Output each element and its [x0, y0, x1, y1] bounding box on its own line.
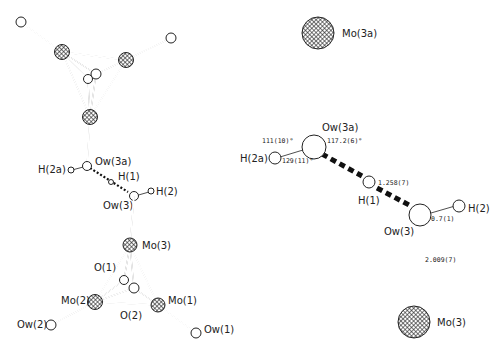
o1-atom — [120, 276, 129, 285]
mo3-atom — [398, 306, 430, 338]
mo3a-atom — [302, 17, 334, 49]
h2-atom — [453, 200, 465, 212]
bond-ow3a-h2a — [280, 150, 303, 157]
label-h2: H(2) — [468, 203, 490, 214]
upper-water-oxygen-left — [16, 17, 26, 27]
label-mo1: Mo(1) — [168, 295, 197, 306]
ow1-atom — [191, 328, 201, 338]
mo-atom-upper-left — [55, 45, 70, 60]
right-structure: Mo(3a) Ow(3a) H(2a) 111(10)° 117.2(6)° 1… — [240, 17, 490, 338]
ow2-atom — [46, 320, 56, 330]
upper-water-oxygen-right — [166, 33, 176, 43]
label-h1: H(1) — [118, 171, 140, 182]
label-h2a: H(2a) — [38, 164, 66, 175]
label-ow1: Ow(1) — [204, 324, 234, 335]
hydrogen-bond-dashed-lower — [377, 188, 409, 205]
label-mo2: Mo(2) — [61, 295, 90, 306]
angle-h2a-ow3a-h1: 129(11)° — [282, 157, 313, 165]
label-mo3: Mo(3) — [437, 317, 466, 328]
label-ow3: Ow(3) — [103, 200, 133, 211]
label-o1: O(1) — [94, 262, 116, 273]
dist-ow3-mo3: 2.009(7) — [425, 256, 456, 264]
o2-atom — [129, 283, 139, 293]
upper-cluster-bonds — [21, 22, 171, 166]
oxygen-atom-upper-b — [91, 69, 101, 79]
h1-atom — [109, 180, 114, 185]
label-h2a: H(2a) — [240, 153, 268, 164]
hydrogen-bond-dashed-upper — [322, 154, 362, 176]
dist-ow3a-h1: 1.258(7) — [378, 179, 409, 187]
ow3-atom — [409, 204, 431, 226]
dist-ow3-h2: 0.7(1) — [431, 215, 454, 223]
label-h2: H(2) — [156, 186, 178, 197]
ow3a-atom — [302, 135, 326, 159]
mo3a-atom — [83, 110, 98, 125]
label-ow3a: Ow(3a) — [95, 156, 131, 167]
h2a-atom — [68, 167, 74, 173]
angle-mo3a-ow3a-h1: 117.2(6)° — [327, 137, 362, 145]
label-ow3a: Ow(3a) — [322, 122, 358, 133]
label-ow2: Ow(2) — [17, 319, 47, 330]
left-structure: Ow(3a) H(2a) H(1) H(2) Ow(3) — [16, 17, 234, 338]
label-h1: H(1) — [358, 195, 380, 206]
mo3-atom — [123, 238, 137, 252]
label-mo3a: Mo(3a) — [342, 28, 377, 39]
mo1-atom — [151, 298, 165, 312]
label-o2: O(2) — [120, 310, 142, 321]
diagram-canvas: Ow(3a) H(2a) H(1) H(2) Ow(3) — [0, 0, 499, 350]
h1-atom — [363, 176, 375, 188]
ow3a-atom — [83, 162, 92, 171]
h2-atom — [148, 188, 154, 194]
h2a-atom — [269, 152, 281, 164]
angle-h2a-ow3a-mo3a: 111(10)° — [262, 137, 293, 145]
label-mo3: Mo(3) — [142, 240, 171, 251]
mo-atom-upper-right — [119, 53, 134, 68]
bond-ow3-h2 — [431, 206, 455, 213]
label-ow3: Ow(3) — [384, 226, 414, 237]
